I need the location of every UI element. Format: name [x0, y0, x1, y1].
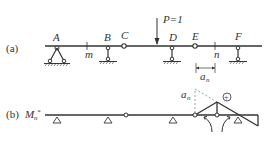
roller-support-D: [163, 46, 181, 64]
hinge-E: [193, 44, 197, 48]
pinned-support-A: [44, 46, 70, 66]
load-arrow-icon: [155, 18, 160, 45]
part-a-label: (a): [6, 42, 19, 55]
part-b-label: (b): [6, 108, 19, 121]
hinge-C: [122, 44, 126, 48]
point-label-B: B: [104, 31, 111, 43]
hinge-n-b: [215, 113, 219, 117]
support-triangle-B: [104, 117, 112, 123]
roller-support-F: [229, 46, 247, 64]
ordinate-an-subscript: n: [187, 94, 191, 102]
point-label-m: m: [85, 48, 93, 60]
extension-dashed-line: [195, 89, 217, 102]
point-label-D: D: [168, 31, 177, 43]
support-triangle-D: [169, 117, 177, 123]
influence-line-shape: [195, 102, 258, 126]
support-triangle-A: [53, 117, 61, 123]
roller-support-B: [99, 46, 117, 64]
positive-sign-text: +: [224, 93, 229, 102]
point-label-F: F: [234, 30, 242, 42]
structural-diagram: (a) A m B C P=1 D E: [0, 0, 274, 165]
support-triangle-F: [234, 117, 242, 123]
dimension-an-subscript: n: [206, 76, 210, 84]
point-label-A: A: [52, 31, 60, 43]
point-label-E: E: [191, 30, 199, 42]
hinge-C-b: [124, 113, 128, 117]
influence-line-superscript: *: [37, 108, 41, 116]
dimension-an: [196, 63, 215, 73]
hinge-E-b: [193, 113, 197, 117]
point-label-n: n: [214, 48, 220, 60]
load-label: P=1: [162, 13, 183, 25]
rotation-arrows-icon: [204, 117, 230, 133]
point-label-C: C: [121, 29, 129, 41]
